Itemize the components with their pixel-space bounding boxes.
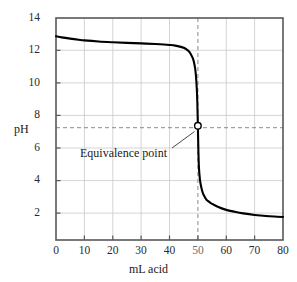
- plot-canvas: [0, 0, 297, 282]
- x-axis-title: mL acid: [0, 263, 297, 275]
- x-tick-label-80: 80: [273, 245, 293, 257]
- x-tick-label-40: 40: [160, 245, 180, 257]
- y-tick-label-10: 10: [18, 77, 40, 89]
- titration-curve-figure: 14 12 10 8 6 4 2 0 10 20 30 40 50 60 70 …: [0, 0, 297, 282]
- x-tick-label-70: 70: [245, 245, 265, 257]
- equivalence-point-marker: [195, 123, 202, 130]
- x-tick-label-10: 10: [74, 245, 94, 257]
- y-tick-label-2: 2: [18, 207, 40, 219]
- x-tick-label-30: 30: [131, 245, 151, 257]
- y-tick-label-14: 14: [18, 12, 40, 24]
- x-tick-label-0: 0: [46, 245, 66, 257]
- y-tick-label-8: 8: [18, 109, 40, 121]
- x-tick-label-50: 50: [188, 245, 208, 257]
- x-tick-label-20: 20: [103, 245, 123, 257]
- y-tick-label-6: 6: [18, 142, 40, 154]
- y-axis-title: pH: [14, 123, 29, 135]
- y-tick-label-4: 4: [18, 174, 40, 186]
- equivalence-point-annotation-label: Equivalence point: [80, 147, 167, 159]
- y-tick-label-12: 12: [18, 44, 40, 56]
- x-tick-label-60: 60: [216, 245, 236, 257]
